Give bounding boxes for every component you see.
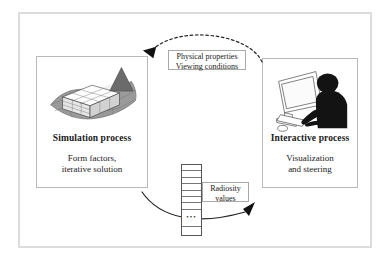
panel-simulation-subtitle: Form factors, iterative solution bbox=[37, 153, 147, 175]
radiosity-value-vector: ••• bbox=[181, 164, 202, 236]
user-at-workstation-illustration-icon bbox=[263, 59, 357, 135]
caption-physical-properties: Physical properties Viewing conditions bbox=[168, 50, 246, 70]
caption-radiosity-values: Radiosity values bbox=[202, 182, 249, 202]
figure-canvas: Simulation process Form factors, iterati… bbox=[0, 0, 390, 264]
vector-ellipsis-cell: ••• bbox=[182, 210, 201, 227]
panel-interactive-title: Interactive process bbox=[263, 133, 357, 143]
vector-cell bbox=[182, 227, 201, 235]
panel-interactive-process: Interactive process Visualization and st… bbox=[262, 58, 358, 188]
radiosity-scene-illustration-icon bbox=[37, 57, 147, 135]
panel-interactive-subtitle: Visualization and steering bbox=[263, 153, 357, 175]
panel-simulation-title: Simulation process bbox=[37, 133, 147, 143]
panel-simulation-process: Simulation process Form factors, iterati… bbox=[36, 56, 148, 188]
